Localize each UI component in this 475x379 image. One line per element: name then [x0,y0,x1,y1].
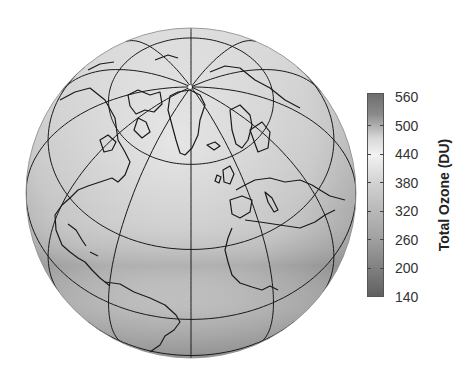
colorbar-tick-mark [380,182,384,183]
colorbar-tick-mark [367,182,371,183]
colorbar-tick-440: 440 [395,147,418,161]
colorbar-tick-380: 380 [395,176,418,190]
colorbar-tick-mark [367,125,371,126]
colorbar-tick-mark [380,211,384,212]
colorbar-title: Total Ozone (DU) [436,139,452,252]
colorbar-tick-320: 320 [395,204,418,218]
colorbar-tick-mark [367,268,371,269]
colorbar-tick-mark [380,154,384,155]
colorbar-tick-mark [367,154,371,155]
colorbar [367,93,384,297]
colorbar-tick-mark [367,239,371,240]
north-pole-marker [188,85,192,89]
colorbar-tick-mark [380,268,384,269]
colorbar-tick-140: 140 [395,290,418,304]
colorbar-tick-mark [380,125,384,126]
colorbar-tick-mark [367,211,371,212]
colorbar-tick-200: 200 [395,261,418,275]
colorbar-tick-260: 260 [395,233,418,247]
colorbar-tick-500: 500 [395,119,418,133]
colorbar-tick-560: 560 [395,90,418,104]
colorbar-tick-mark [380,239,384,240]
